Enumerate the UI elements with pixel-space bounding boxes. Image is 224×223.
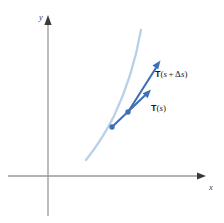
paren-close: ) xyxy=(163,103,166,113)
point-s-plus-ds xyxy=(125,109,130,114)
paren-close: ) xyxy=(184,69,187,79)
diagram-canvas xyxy=(0,0,224,223)
y-axis-arrowhead xyxy=(44,15,51,25)
tangent-vector-s-plus-ds-label: T(s+Δs) xyxy=(155,70,187,79)
x-axis-label: x xyxy=(209,183,213,192)
plus-operator: + xyxy=(167,69,175,79)
tangent-vector-s-label: T(s) xyxy=(151,104,166,113)
space-curve xyxy=(86,30,141,160)
y-axis-label: y xyxy=(39,13,43,22)
axes-group xyxy=(8,15,206,216)
x-axis-arrowhead xyxy=(197,172,206,179)
curve-group xyxy=(86,30,141,160)
point-s xyxy=(109,124,114,129)
tangent-vector-s-plus-ds-arrowhead xyxy=(152,61,160,70)
figure-container: y x T(s+Δs) T(s) xyxy=(0,0,224,223)
